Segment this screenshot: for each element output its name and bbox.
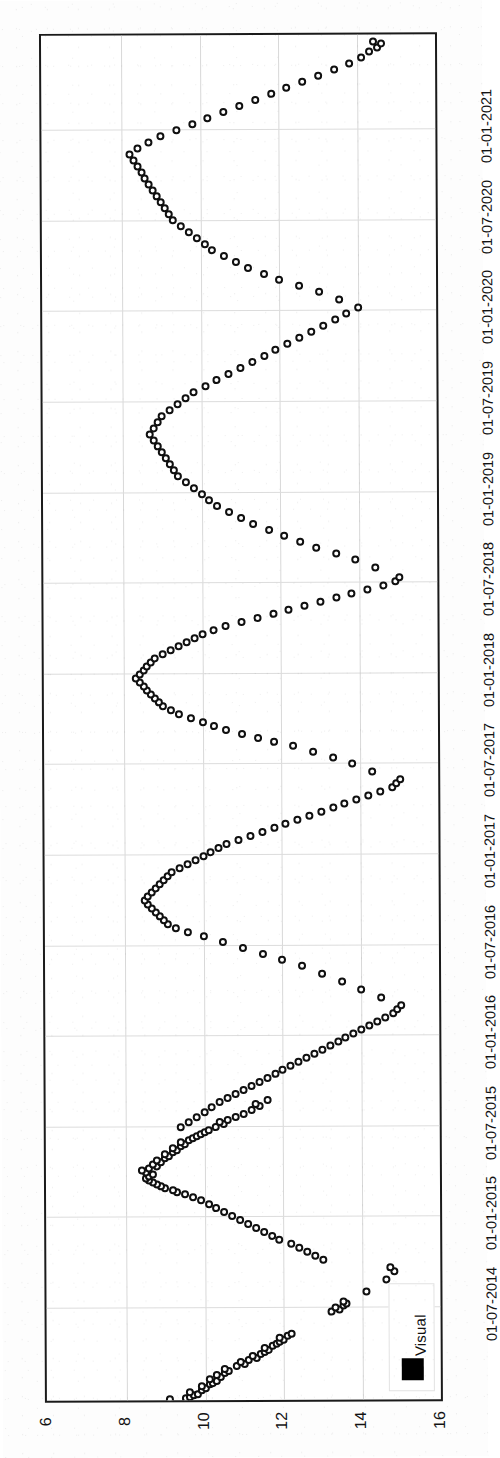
data-point [364, 791, 372, 799]
data-point [172, 924, 180, 932]
data-point [240, 1086, 248, 1094]
data-point [326, 1042, 334, 1050]
data-point [307, 328, 315, 336]
magnitude-tick-6: 6 [37, 1417, 55, 1426]
data-point [225, 370, 233, 378]
data-point [183, 860, 191, 868]
data-point [237, 514, 245, 522]
magnitude-axis-labels: 6810121416 [0, 0, 482, 1]
data-point [137, 1166, 145, 1174]
gridline-date-01-01-2021 [41, 128, 435, 131]
data-point [300, 602, 308, 610]
data-point [232, 1113, 240, 1121]
data-point [282, 820, 290, 828]
data-point [177, 222, 185, 230]
data-point [338, 978, 346, 986]
data-point [318, 1046, 326, 1054]
data-point [271, 1070, 279, 1078]
data-point [159, 650, 167, 658]
data-point [348, 590, 356, 598]
data-point [168, 868, 176, 876]
data-point [263, 1096, 271, 1104]
data-point [303, 1248, 311, 1256]
data-point [282, 84, 290, 92]
data-point [258, 828, 266, 836]
data-point [205, 496, 213, 504]
data-point [228, 1212, 236, 1220]
data-point [235, 836, 243, 844]
data-point [267, 90, 275, 98]
data-point [295, 334, 303, 342]
data-point [198, 630, 206, 638]
data-point [310, 1050, 318, 1058]
data-point [259, 950, 267, 958]
data-point [253, 614, 261, 622]
gridline-magnitude-16 [436, 34, 443, 1399]
data-point [185, 1118, 193, 1126]
data-point [298, 962, 306, 970]
data-point [334, 1038, 342, 1046]
data-point [205, 1200, 213, 1208]
data-point [213, 502, 221, 510]
data-point [363, 585, 371, 593]
data-point [318, 970, 326, 978]
data-point [350, 1030, 358, 1038]
data-point [353, 795, 361, 803]
date-tick-01-07-2019: 01-07-2019 [479, 361, 495, 435]
data-point [319, 1256, 327, 1264]
data-point [246, 832, 254, 840]
data-point [188, 120, 196, 128]
data-point [295, 282, 303, 290]
data-point [220, 108, 228, 116]
legend-swatch-visual [402, 1358, 424, 1380]
gridlines [41, 34, 435, 36]
data-point [341, 800, 349, 808]
magnitude-tick-8: 8 [116, 1417, 134, 1426]
date-tick-01-07-2018: 01-07-2018 [480, 542, 496, 616]
data-point [182, 638, 190, 646]
data-point [295, 1058, 303, 1066]
data-point [249, 1352, 257, 1360]
data-point [295, 1244, 303, 1252]
data-point [269, 610, 277, 618]
data-point [192, 234, 200, 242]
data-point [276, 1236, 284, 1244]
data-point [365, 1021, 373, 1029]
data-point [181, 394, 189, 402]
data-point [182, 478, 190, 486]
data-point [247, 1082, 255, 1090]
data-point [335, 296, 343, 304]
data-point [345, 60, 353, 68]
data-point [125, 150, 133, 158]
data-point [376, 787, 384, 795]
data-point [278, 956, 286, 964]
data-point [365, 47, 373, 55]
data-point [314, 72, 322, 80]
data-point [205, 1375, 213, 1383]
gridline-magnitude-8 [121, 36, 128, 1401]
data-point [220, 1208, 228, 1216]
data-point [145, 138, 153, 146]
gridline-date-01-07-2019 [43, 400, 437, 403]
date-tick-01-01-2015: 01-01-2015 [483, 1176, 499, 1250]
data-point [373, 1017, 381, 1025]
gridline-date-01-07-2020 [42, 219, 436, 222]
data-point [312, 544, 320, 552]
data-point [232, 1090, 240, 1098]
data-point [167, 646, 175, 654]
data-point [348, 760, 356, 768]
data-point [187, 714, 195, 722]
data-point [232, 258, 240, 266]
data-point [199, 718, 207, 726]
data-point [189, 1193, 197, 1201]
data-point [235, 102, 243, 110]
date-tick-01-07-2014: 01-07-2014 [483, 1267, 499, 1341]
data-point [260, 1228, 268, 1236]
gridline-date-01-07-2018 [43, 581, 437, 584]
data-point [371, 563, 379, 571]
data-point [210, 722, 218, 730]
data-point [288, 1330, 296, 1338]
data-point [224, 1116, 232, 1124]
data-point [151, 654, 159, 662]
data-point [279, 1066, 287, 1074]
